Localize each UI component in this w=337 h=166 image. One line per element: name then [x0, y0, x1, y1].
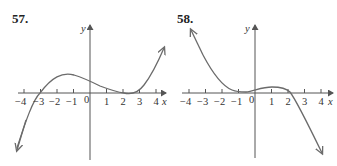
tick-label: 4 — [319, 96, 325, 107]
tick-label: 2 — [286, 96, 291, 107]
tick-label: −4 — [180, 96, 192, 107]
x-axis-label: x — [327, 96, 333, 107]
tick-label: 3 — [302, 96, 307, 107]
tick-label: 0 — [249, 94, 254, 105]
y-axis-label: y — [244, 23, 250, 34]
graph-58: −4 −3 −2 −1 0 1 2 3 4 x y — [0, 0, 337, 166]
tick-label: −1 — [231, 96, 242, 107]
tick-label: 1 — [269, 96, 274, 107]
tick-label: −2 — [214, 96, 225, 107]
tick-label: −3 — [197, 96, 208, 107]
